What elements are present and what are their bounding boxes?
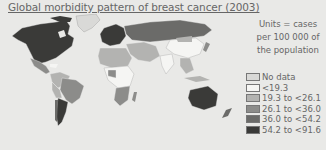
region-southeast-asia xyxy=(180,58,194,74)
world-map xyxy=(0,14,250,134)
legend-swatch xyxy=(246,84,260,92)
legend-item-36-0-to-54-2: 36.0 to <54.2 xyxy=(246,114,321,125)
legend-item-lt-19-3: <19.3 xyxy=(246,83,321,94)
units-note: Units = cases per 100 000 of the populat… xyxy=(252,18,324,57)
legend-swatch xyxy=(246,73,260,81)
region-central-africa xyxy=(104,66,134,88)
region-new-zealand xyxy=(222,108,232,118)
legend-swatch xyxy=(246,126,260,134)
region-australia xyxy=(188,86,218,110)
legend-item-26-1-to-36-0: 26.1 to <36.0 xyxy=(246,104,321,115)
region-europe xyxy=(100,24,126,46)
region-greenland xyxy=(76,14,100,32)
legend: No data <19.3 19.3 to <26.1 26.1 to <36.… xyxy=(246,72,321,135)
region-north-america xyxy=(12,20,74,64)
legend-swatch xyxy=(246,105,260,113)
region-russia xyxy=(124,20,212,42)
region-southern-africa xyxy=(114,86,130,106)
legend-item-19-3-to-26-1: 19.3 to <26.1 xyxy=(246,93,321,104)
region-north-africa xyxy=(98,48,132,68)
map-title: Global morbidity pattern of breast cance… xyxy=(8,1,259,13)
legend-swatch xyxy=(246,94,260,102)
legend-item-54-2-to-91-6: 54.2 to <91.6 xyxy=(246,125,321,136)
legend-item-no-data: No data xyxy=(246,72,321,83)
legend-swatch xyxy=(246,115,260,123)
region-india xyxy=(160,54,174,74)
